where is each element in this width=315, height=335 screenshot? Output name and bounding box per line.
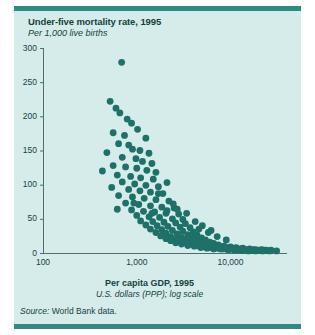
scatter-point (143, 167, 150, 174)
scatter-point (131, 181, 138, 188)
x-tick-label: 1,000 (115, 257, 159, 267)
y-tick-label: 150 (11, 145, 37, 155)
scatter-point (164, 179, 171, 186)
scatter-plot-area: 050100150200250300 1001,00010,000 (6, 6, 293, 319)
scatter-point (110, 129, 117, 136)
scatter-point (192, 218, 199, 225)
scatter-point (155, 190, 162, 197)
scatter-point (99, 168, 106, 175)
y-tick-label: 0 (11, 248, 37, 258)
scatter-point (129, 194, 136, 201)
y-tick-label: 100 (11, 179, 37, 189)
x-tick-label: 10,000 (209, 257, 253, 267)
scatter-point (127, 173, 134, 180)
scatter-point (115, 192, 122, 199)
scatter-point (129, 146, 136, 153)
scatter-point (178, 241, 185, 248)
scatter-point (119, 154, 126, 161)
scatter-point (108, 184, 115, 191)
scatter-point (116, 110, 123, 117)
scatter-points (99, 59, 280, 254)
scatter-point (208, 227, 215, 234)
scatter-point (128, 120, 135, 127)
scatter-point (139, 158, 146, 165)
scatter-point (137, 174, 144, 181)
bottom-rule (14, 324, 301, 329)
scatter-point (121, 132, 128, 139)
scatter-point (191, 243, 198, 250)
scatter-point (125, 186, 132, 193)
y-tick-label: 200 (11, 111, 37, 121)
scatter-point (217, 246, 224, 253)
scatter-point (142, 182, 149, 189)
scatter-point (210, 246, 217, 253)
scatter-point (137, 187, 144, 194)
source-label: Source: (20, 306, 49, 316)
scatter-point (146, 150, 153, 157)
scatter-point (273, 248, 280, 255)
scatter-point (130, 200, 137, 207)
scatter-point (107, 98, 114, 105)
scatter-point (150, 176, 157, 183)
scatter-point (155, 183, 162, 190)
scatter-point (214, 233, 221, 240)
scatter-point (197, 244, 204, 251)
scatter-point (199, 222, 206, 229)
scatter-point (259, 248, 266, 255)
scatter-point (142, 135, 149, 142)
scatter-point (140, 208, 147, 215)
scatter-point (231, 247, 238, 254)
scatter-point (119, 179, 126, 186)
scatter-point (133, 212, 140, 219)
scatter-point (110, 162, 117, 169)
x-axis-title: Per capita GDP, 1995 (6, 278, 293, 288)
x-tick-label: 100 (21, 257, 65, 267)
scatter-point (122, 164, 129, 171)
scatter-point (153, 169, 160, 176)
scatter-point (103, 149, 110, 156)
scatter-point (164, 207, 171, 214)
scatter-point (114, 206, 121, 213)
scatter-point (133, 155, 140, 162)
scatter-point (224, 246, 231, 253)
scatter-point (223, 237, 230, 244)
scatter-point (141, 195, 148, 202)
scatter-svg (6, 6, 293, 319)
scatter-point (179, 216, 186, 223)
y-tick-label: 300 (11, 43, 37, 53)
scatter-point (147, 189, 154, 196)
scatter-point (147, 202, 154, 209)
scatter-point (137, 147, 144, 154)
chart-figure: Under-five mortality rate, 1995 Per 1,00… (6, 6, 309, 329)
scatter-point (134, 126, 141, 133)
scatter-point (133, 165, 140, 172)
scatter-point (266, 248, 273, 255)
scatter-point (174, 206, 181, 213)
scatter-point (252, 248, 259, 255)
scatter-point (114, 172, 121, 179)
x-axis-units: U.S. dollars (PPP); log scale (6, 289, 293, 299)
scatter-point (172, 239, 179, 246)
y-tick-label: 250 (11, 77, 37, 87)
scatter-point (153, 196, 160, 203)
scatter-point (184, 242, 191, 249)
scatter-point (238, 247, 245, 254)
scatter-point (149, 160, 156, 167)
y-tick-label: 50 (11, 213, 37, 223)
scatter-point (122, 200, 129, 207)
scatter-point (245, 248, 252, 255)
source-note: Source: World Bank data. (20, 306, 117, 316)
scatter-point (170, 200, 177, 207)
scatter-point (128, 207, 135, 214)
scatter-point (149, 210, 156, 217)
scatter-point (115, 140, 122, 147)
scatter-point (183, 210, 190, 217)
axis-ticks (40, 49, 44, 254)
scatter-point (204, 245, 211, 252)
scatter-point (118, 59, 125, 66)
source-text: World Bank data. (49, 306, 116, 316)
